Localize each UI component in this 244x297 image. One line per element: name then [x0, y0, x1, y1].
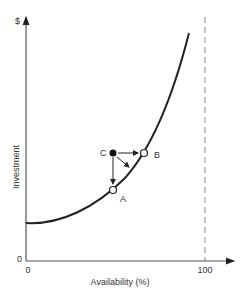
x-zero-label: 0 [25, 265, 30, 275]
investment-availability-curve [26, 33, 189, 223]
point-a-marker [110, 187, 117, 194]
arrow-c-diagonal [117, 157, 129, 167]
availability-investment-diagram: $ Investment 0 0 100 Availability (%) C … [0, 0, 244, 297]
point-b-label: B [154, 150, 160, 160]
point-c-label: C [100, 148, 107, 158]
y-zero-label: 0 [17, 254, 22, 264]
point-a-label: A [120, 194, 126, 204]
x-hundred-label: 100 [197, 265, 212, 275]
y-axis-label: Investment [11, 144, 21, 189]
x-axis-label: Availability (%) [91, 277, 150, 287]
y-unit-label: $ [15, 16, 20, 26]
point-b-marker [141, 150, 148, 157]
point-c-marker [110, 150, 117, 157]
